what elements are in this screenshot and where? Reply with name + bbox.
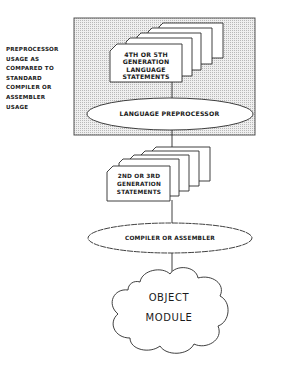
side-annotation: PREPROCESSOR USAGE AS COMPARED TO STANDA… [6,45,72,112]
side-annotation-line: STANDARD [6,74,72,84]
side-annotation-line: PREPROCESSOR [6,45,72,55]
label-line: GENERATION [108,180,170,188]
preprocessor-label: LANGUAGE PREPROCESSOR [87,110,252,117]
label-line: 4TH OR 5TH [110,51,182,58]
side-annotation-line: USAGE [6,103,72,113]
label-line: OBJECT [110,288,228,308]
label-line: STATEMENTS [108,188,170,196]
compiler-label: COMPILER OR ASSEMBLER [88,235,252,241]
side-annotation-line: USAGE AS [6,55,72,65]
label-line: MODULE [110,308,228,328]
side-annotation-line: COMPILER OR [6,83,72,93]
side-annotation-line: COMPARED TO [6,64,72,74]
side-annotation-line: ASSEMBLER [6,93,72,103]
object-module-label: OBJECT MODULE [110,288,228,328]
source-stack-label: 4TH OR 5TH GENERATION LANGUAGE STATEMENT… [110,51,182,81]
intermediate-stack-label: 2ND OR 3RD GENERATION STATEMENTS [108,172,170,197]
label-line: GENERATION [110,58,182,65]
label-line: STATEMENTS [110,73,182,80]
label-line: LANGUAGE [110,66,182,73]
label-line: 2ND OR 3RD [108,172,170,180]
